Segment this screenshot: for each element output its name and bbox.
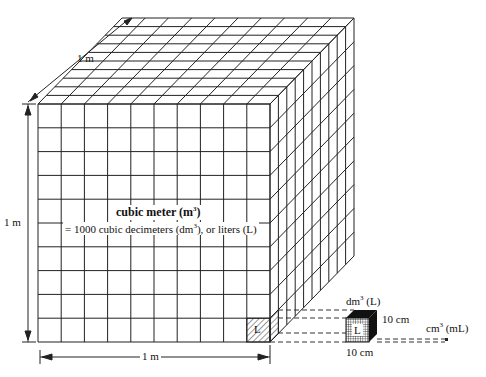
liter-cell-side — [270, 310, 278, 342]
cube-grid — [38, 18, 354, 342]
bottom-dimension-label: 10 cm — [346, 346, 373, 358]
liter-cell-label: L — [254, 323, 261, 335]
side-dimension-label: 10 cm — [382, 313, 409, 325]
height-dimension-label: 1 m — [4, 216, 21, 228]
dm-cube-label: L — [354, 324, 361, 336]
cubic-meter-subtitle: = 1000 cubic decimeters (dm3), or liters… — [63, 222, 259, 235]
cubic-decimeter-label: dm3 (L) — [346, 294, 380, 307]
cubic-centimeter-label: cm3 (mL) — [426, 321, 468, 334]
width-dimension-label: 1 m — [140, 350, 161, 362]
depth-dimension-label: 1 m — [77, 52, 94, 64]
cubic-centimeter — [445, 338, 448, 341]
cube-diagram — [0, 0, 486, 377]
cubic-meter-title: cubic meter (m3) — [114, 205, 203, 220]
